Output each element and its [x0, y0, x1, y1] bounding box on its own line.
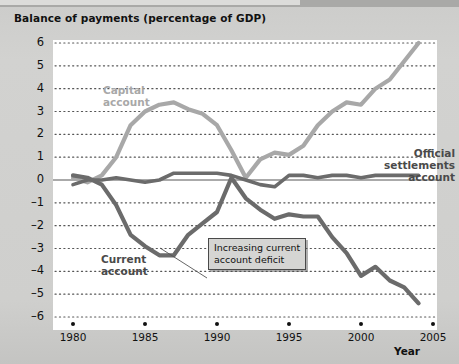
y-axis-tick-label: 0 [18, 172, 44, 186]
x-axis-tick-label: 2000 [338, 331, 384, 343]
annotation-leader-line [160, 248, 207, 278]
y-axis-tick-label: 1 [18, 149, 44, 163]
x-axis-tick-dot [215, 322, 219, 326]
current-label-line2: account [101, 265, 148, 277]
x-axis-title: Year [394, 345, 420, 357]
official-label-line1: Official [370, 147, 455, 159]
x-axis-tick-dot [143, 322, 147, 326]
x-axis-tick-label: 2005 [410, 331, 456, 343]
y-axis-tick-label: –4 [18, 263, 44, 277]
x-axis-tick-label: 1990 [194, 331, 240, 343]
annotation-line2: account deficit [214, 254, 300, 266]
x-axis-tick-dot [287, 322, 291, 326]
series-line-capital-account [73, 43, 419, 182]
official-label-line3: account [370, 171, 455, 183]
chart-title: Balance of payments (percentage of GDP) [14, 12, 266, 24]
y-axis-tick-label: –6 [18, 309, 44, 323]
annotation-callout: Increasing current account deficit [208, 238, 306, 270]
figure-page: Balance of payments (percentage of GDP) … [0, 0, 459, 364]
y-axis-tick-label: 3 [18, 104, 44, 118]
series-label-official-settlements-account: Official settlements account [370, 147, 455, 183]
y-axis-tick-label: –3 [18, 241, 44, 255]
page-top-highlight [0, 0, 300, 5]
annotation-line1: Increasing current [214, 242, 300, 254]
y-axis-tick-label: –5 [18, 286, 44, 300]
x-axis-tick-dot [431, 322, 435, 326]
official-label-line2: settlements [370, 159, 455, 171]
x-axis-tick-dot [359, 322, 363, 326]
capital-label-line1: Capital [103, 84, 150, 96]
y-axis-tick-label: –1 [18, 195, 44, 209]
x-axis-tick-label: 1995 [266, 331, 312, 343]
series-label-current-account: Current account [101, 253, 148, 277]
chart-canvas [0, 26, 459, 356]
current-label-line1: Current [101, 253, 148, 265]
x-axis-tick-label: 1985 [122, 331, 168, 343]
y-axis-tick-label: 6 [18, 35, 44, 49]
y-axis-tick-label: 5 [18, 58, 44, 72]
series-label-capital-account: Capital account [103, 84, 150, 108]
capital-label-line2: account [103, 96, 150, 108]
y-axis-tick-label: 4 [18, 81, 44, 95]
y-axis-tick-label: 2 [18, 126, 44, 140]
x-axis-tick-label: 1980 [50, 331, 96, 343]
x-axis-tick-dot [71, 322, 75, 326]
y-axis-tick-label: –2 [18, 218, 44, 232]
